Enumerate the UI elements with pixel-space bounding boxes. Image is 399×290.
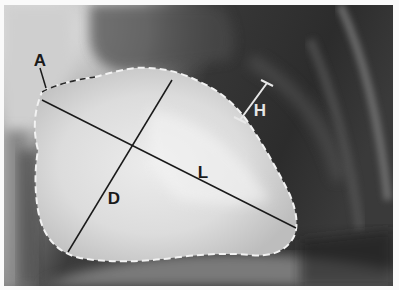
label-a: A [34, 51, 46, 70]
xray-image: A H L D [4, 5, 393, 286]
xray-canvas: A H L D [4, 5, 393, 286]
label-l: L [198, 163, 208, 182]
label-d: D [108, 189, 120, 208]
label-h: H [254, 101, 266, 120]
